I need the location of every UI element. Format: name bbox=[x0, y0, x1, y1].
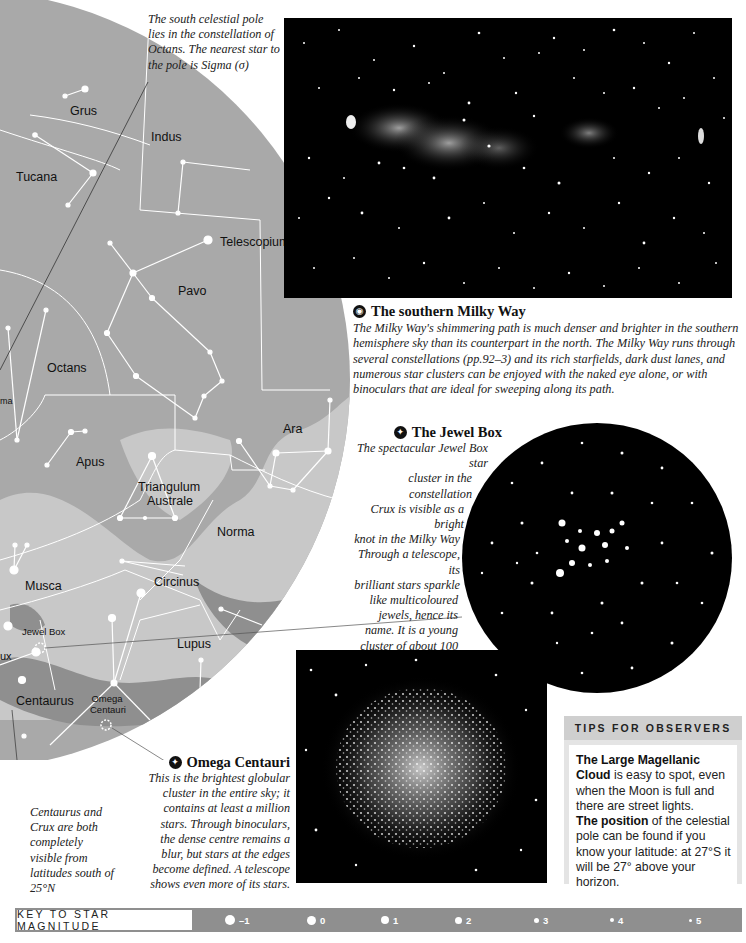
label-sigma: ma bbox=[0, 396, 13, 406]
star-dot-icon bbox=[455, 917, 462, 924]
magnitude-label: 4 bbox=[618, 915, 623, 926]
jewel-box-caption: ✦ The Jewel Box bbox=[370, 424, 502, 441]
jewel-box-line: jewels, hence its bbox=[350, 608, 458, 623]
tips-body: The Large Magellanic Cloud is easy to sp… bbox=[569, 745, 737, 885]
star-dot-icon bbox=[225, 915, 235, 925]
magnitude-label: –1 bbox=[239, 915, 250, 926]
magnitude-item: 4 bbox=[610, 908, 623, 932]
jewel-box-line: like multicoloured bbox=[350, 593, 458, 608]
label-ara: Ara bbox=[283, 422, 302, 436]
label-indus: Indus bbox=[151, 130, 182, 144]
magnitude-item: 0 bbox=[307, 908, 325, 932]
milky-way-heading: ◉ The southern Milky Way bbox=[353, 303, 743, 320]
tips-heading: TIPS FOR OBSERVERS bbox=[564, 716, 742, 740]
magnitude-item: –1 bbox=[225, 908, 250, 932]
milky-way-caption: ◉ The southern Milky Way The Milky Way's… bbox=[353, 303, 743, 397]
jewel-box-line: cluster in the constellation bbox=[350, 471, 472, 501]
label-telescopium: Telescopium bbox=[220, 235, 289, 249]
jewel-box-line: Through a telescope, its bbox=[350, 547, 460, 577]
magnitude-label: 5 bbox=[696, 915, 701, 926]
jewel-box-line: Crux is visible as a bright bbox=[350, 502, 464, 532]
centaurus-caption: Centaurus and Crux are both completely v… bbox=[30, 805, 115, 896]
label-grus: Grus bbox=[70, 104, 97, 118]
milky-way-stars bbox=[284, 18, 732, 298]
magnitude-item: 3 bbox=[534, 908, 548, 932]
tip-2-bold: The position bbox=[576, 814, 648, 828]
omega-line: the dense centre remains a bbox=[142, 832, 290, 847]
omega-line: contains at least a million bbox=[142, 801, 290, 816]
label-octans: Octans bbox=[47, 361, 87, 375]
magnitude-key-label: KEY TO STAR MAGNITUDE bbox=[16, 909, 193, 931]
milky-way-body: The Milky Way's shimmering path is much … bbox=[353, 321, 743, 397]
omega-line: blur, but stars at the edges bbox=[142, 847, 290, 862]
eye-icon: ◉ bbox=[353, 305, 366, 318]
omega-centauri-heading: ✦ Omega Centauri bbox=[142, 754, 290, 771]
jewel-box-line: The spectacular Jewel Box star bbox=[350, 441, 488, 471]
label-centaurus: Centaurus bbox=[16, 694, 74, 708]
omega-line: This is the brightest globular bbox=[142, 771, 290, 786]
omega-line: become defined. A telescope bbox=[142, 862, 290, 877]
omega-line: shows even more of its stars. bbox=[142, 877, 290, 892]
magnitude-label: 3 bbox=[543, 915, 548, 926]
omega-line: cluster in the entire sky; it bbox=[142, 786, 290, 801]
label-apus: Apus bbox=[76, 455, 105, 469]
jewel-box-line: knot in the Milky Way bbox=[350, 532, 460, 547]
telescope-icon: ✦ bbox=[169, 756, 182, 769]
jewel-box-heading: ✦ The Jewel Box bbox=[370, 424, 502, 441]
label-lupus: Lupus bbox=[177, 637, 211, 651]
pole-caption: The south celestial pole lies in the con… bbox=[148, 12, 283, 73]
magnitude-item: 2 bbox=[455, 908, 471, 932]
magnitude-key: KEY TO STAR MAGNITUDE –1 0 1 2 3 4 5 bbox=[15, 908, 742, 932]
omega-centauri-body: This is the brightest globular cluster i… bbox=[142, 771, 290, 893]
star-dot-icon bbox=[610, 918, 614, 922]
jewel-box-line: name. It is a young bbox=[350, 623, 458, 638]
omega-line: stars. Through binoculars, bbox=[142, 817, 290, 832]
label-norma: Norma bbox=[217, 525, 255, 539]
star-dot-icon bbox=[307, 916, 316, 925]
milky-way-title: The southern Milky Way bbox=[371, 303, 526, 320]
label-jewel-box: Jewel Box bbox=[22, 626, 65, 637]
magnitude-label: 2 bbox=[466, 915, 471, 926]
omega-centauri-photo bbox=[296, 650, 547, 883]
label-circinus: Circinus bbox=[154, 575, 199, 589]
jewel-box-line: brilliant stars sparkle bbox=[350, 578, 460, 593]
magnitude-item: 5 bbox=[689, 908, 701, 932]
label-omega: Omega bbox=[90, 693, 124, 704]
label-omega-centauri: Omega Centauri bbox=[90, 693, 124, 715]
milky-way-photo bbox=[284, 18, 732, 298]
jewel-box-body: The spectacular Jewel Box star cluster i… bbox=[350, 441, 460, 684]
star-dot-icon bbox=[689, 919, 692, 922]
label-centauri: Centauri bbox=[90, 704, 124, 715]
tips-box: TIPS FOR OBSERVERS The Large Magellanic … bbox=[564, 716, 742, 884]
magnitude-item: 1 bbox=[381, 908, 398, 932]
star-dot-icon bbox=[534, 918, 539, 923]
label-triangulum: Triangulum bbox=[138, 480, 200, 494]
label-crux: ux bbox=[0, 650, 12, 662]
omega-centauri-caption: ✦ Omega Centauri This is the brightest g… bbox=[142, 754, 290, 893]
label-pavo: Pavo bbox=[178, 284, 207, 298]
label-tucana: Tucana bbox=[16, 170, 57, 184]
label-musca: Musca bbox=[25, 579, 62, 593]
star-dot-icon bbox=[381, 916, 389, 924]
label-australe: Australe bbox=[147, 494, 193, 508]
magnitude-label: 1 bbox=[393, 915, 398, 926]
omega-centauri-stars bbox=[296, 650, 547, 883]
magnitude-label: 0 bbox=[320, 915, 325, 926]
omega-centauri-title: Omega Centauri bbox=[187, 754, 291, 771]
telescope-icon: ✦ bbox=[394, 426, 407, 439]
jewel-box-title: The Jewel Box bbox=[412, 424, 502, 441]
